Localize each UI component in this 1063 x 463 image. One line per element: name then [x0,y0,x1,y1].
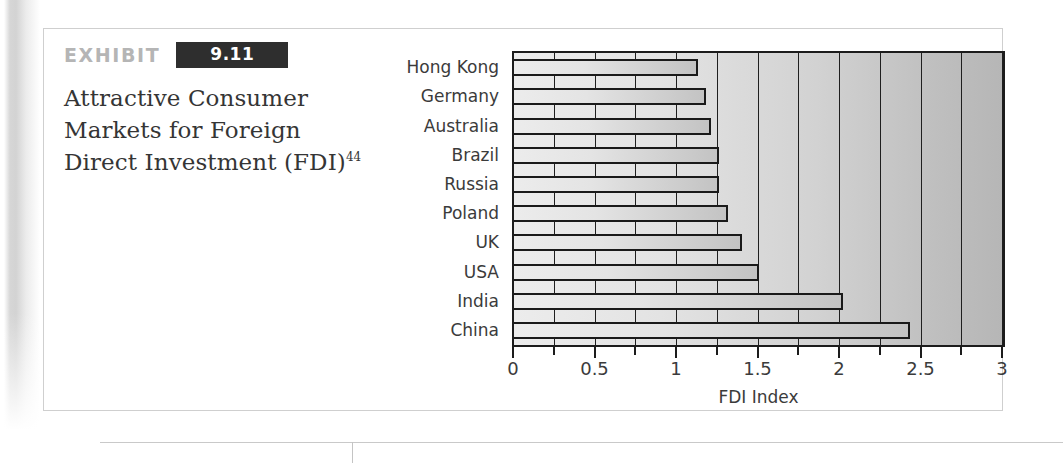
axis-tick-minor [797,347,799,355]
gridline [961,53,962,345]
bar [512,264,759,281]
axis-tick-minor [960,347,962,355]
axis-tick-major [757,347,759,358]
axis-tick-major [1001,347,1003,358]
axis-tick-major [512,347,514,358]
bar [512,234,742,251]
axis-tick-label: 2 [833,360,844,378]
exhibit-panel: EXHIBIT 9.11 Attractive Consumer Markets… [43,28,1003,411]
bar [512,205,728,222]
page-rule [100,442,1063,443]
axis-tick-label: 1.5 [743,360,772,378]
axis-tick-minor [879,347,881,355]
bar [512,322,910,339]
axis-tick-label: 2.5 [906,360,935,378]
exhibit-number-badge: 9.11 [176,42,288,69]
category-label: India [457,293,499,310]
axis-tick-major [920,347,922,358]
axis-tick-label: 0.5 [580,360,609,378]
bar [512,176,719,193]
exhibit-tagline: EXHIBIT 9.11 [64,42,364,68]
fdi-index-bar-chart: Hong KongGermanyAustraliaBrazilRussiaPol… [364,39,989,399]
value-axis: FDI Index 00.511.522.53 [512,347,1005,399]
axis-tick-major [594,347,596,358]
axis-tick-label: 1 [670,360,681,378]
exhibit-caption: EXHIBIT 9.11 Attractive Consumer Markets… [64,42,364,179]
category-label: China [450,322,499,339]
category-label: Brazil [452,147,499,164]
axis-tick-label: 0 [507,360,518,378]
category-label: UK [475,234,499,251]
exhibit-title-text: Attractive Consumer Markets for Foreign … [64,85,346,175]
gridline [1002,53,1003,345]
page-curl-shadow [0,0,44,463]
category-label: Germany [421,88,499,105]
axis-tick-minor [716,347,718,355]
bar [512,293,843,310]
axis-tick-minor [634,347,636,355]
category-label: USA [464,264,499,281]
gridline [921,53,922,345]
bar [512,147,719,164]
category-label: Australia [424,118,499,135]
gridline [880,53,881,345]
category-label: Russia [444,176,499,193]
plot-area [512,51,1005,347]
axis-tick-minor [553,347,555,355]
bar [512,88,706,105]
exhibit-label: EXHIBIT [64,46,160,65]
exhibit-title: Attractive Consumer Markets for Foreign … [64,82,364,179]
axis-tick-major [675,347,677,358]
exhibit-title-footnote: 44 [346,151,361,165]
category-label: Hong Kong [407,59,499,76]
page-column-divider [352,442,353,463]
page-curl-fade [0,313,44,463]
axis-tick-major [838,347,840,358]
bar [512,118,711,135]
category-axis-labels: Hong KongGermanyAustraliaBrazilRussiaPol… [364,51,505,343]
axis-tick-label: 3 [996,360,1007,378]
category-label: Poland [442,205,499,222]
bar [512,59,698,76]
value-axis-title: FDI Index [512,389,1005,406]
